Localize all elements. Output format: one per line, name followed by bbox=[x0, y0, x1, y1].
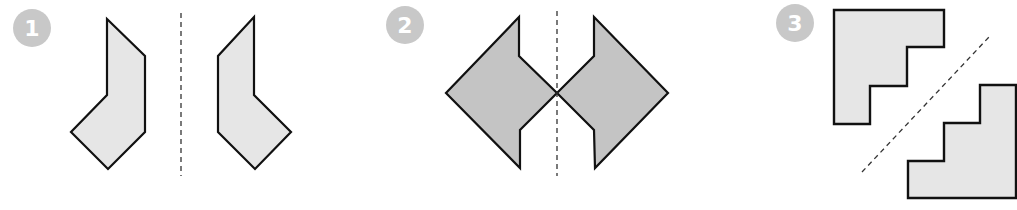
panel-3-top-shape bbox=[834, 10, 944, 124]
panel-1-badge: 1 bbox=[13, 9, 51, 47]
panel-3: 3 bbox=[776, 4, 1016, 198]
panel-2-right-shape bbox=[557, 17, 668, 168]
svg-text:2: 2 bbox=[397, 13, 412, 38]
svg-text:1: 1 bbox=[24, 16, 39, 41]
panel-2: 2 bbox=[386, 6, 668, 176]
panel-3-bottom-shape bbox=[908, 85, 1016, 198]
symmetry-diagram: 1 2 3 bbox=[0, 0, 1017, 210]
svg-text:3: 3 bbox=[787, 11, 802, 36]
panel-2-left-shape bbox=[446, 17, 557, 168]
panel-1-left-shape bbox=[71, 19, 145, 169]
panel-2-badge: 2 bbox=[386, 6, 424, 44]
panel-1: 1 bbox=[13, 9, 291, 176]
panel-3-badge: 3 bbox=[776, 4, 814, 42]
panel-1-right-shape bbox=[218, 17, 291, 169]
